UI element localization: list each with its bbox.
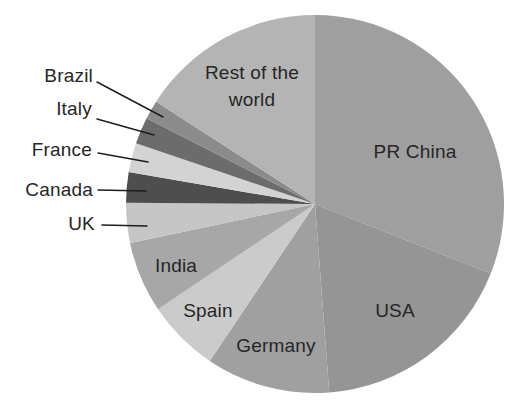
slice-label-germany: Germany xyxy=(236,335,316,358)
slice-label-pr-china: PR China xyxy=(374,141,457,164)
slice-label-usa: USA xyxy=(375,300,415,323)
slice-label-india: India xyxy=(155,255,197,278)
slice-label-uk: UK xyxy=(68,213,95,236)
slice-label-spain: Spain xyxy=(183,300,233,323)
slice-label-brazil: Brazil xyxy=(44,65,93,88)
slice-label-rest-of-the-world: Rest of the world xyxy=(204,59,300,113)
slice-label-france: France xyxy=(32,139,92,162)
pie-chart-figure: Rest of the world PR China USA Germany S… xyxy=(0,0,525,418)
uk-leader-line xyxy=(102,225,147,226)
brazil-leader-line xyxy=(97,82,163,117)
slice-label-canada: Canada xyxy=(25,179,93,202)
slice-label-italy: Italy xyxy=(56,98,92,121)
canada-leader-line xyxy=(98,190,146,191)
